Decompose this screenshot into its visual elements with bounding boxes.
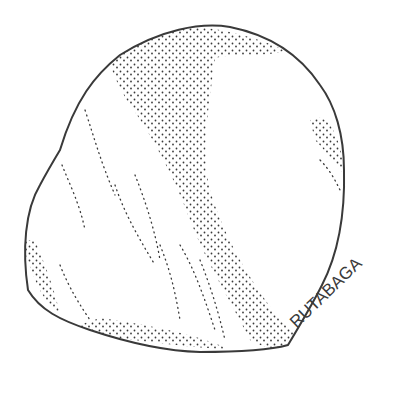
- rutabaga-drawing: [0, 0, 394, 396]
- illustration: RUTABAGA: [0, 0, 394, 396]
- stipple-shading: [22, 27, 345, 350]
